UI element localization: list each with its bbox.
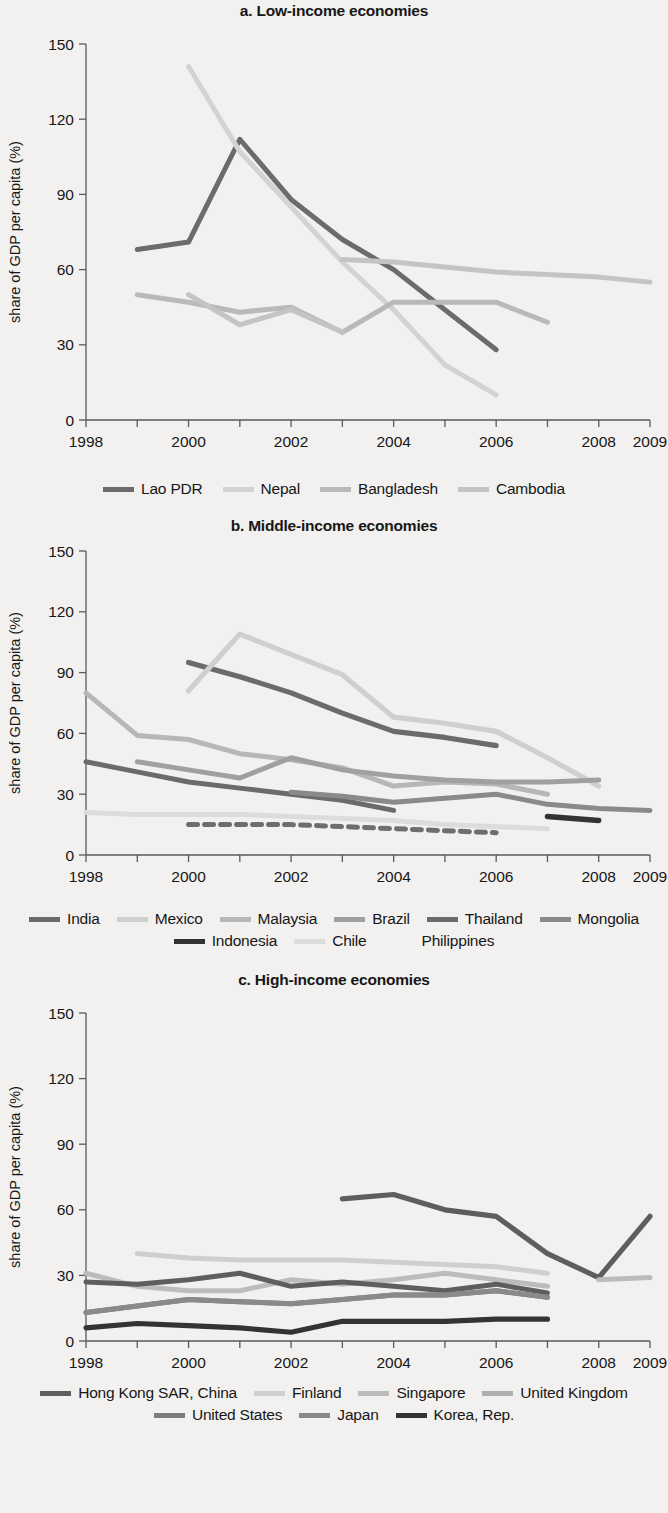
legend-item[interactable]: India xyxy=(29,909,100,929)
legend-item[interactable]: Bangladesh xyxy=(320,479,438,499)
legend-label: Chile xyxy=(332,931,366,951)
legend-item[interactable]: United States xyxy=(154,1405,282,1425)
legend-label: Singapore xyxy=(396,1383,465,1403)
panel-c-plot: 0306090120150199820002002200420062008200… xyxy=(0,991,668,1381)
legend-swatch-icon xyxy=(103,487,134,492)
legend-item[interactable]: Japan xyxy=(299,1405,378,1425)
y-axis-label: share of GDP per capita (%) xyxy=(7,612,23,794)
y-tick-label: 120 xyxy=(48,603,74,620)
x-tick-label: 2002 xyxy=(274,433,308,450)
legend-swatch-icon xyxy=(396,1413,427,1418)
legend-swatch-icon xyxy=(482,1391,513,1396)
legend-label: Bangladesh xyxy=(358,479,438,499)
legend-swatch-icon xyxy=(358,1391,389,1396)
legend-item[interactable]: Lao PDR xyxy=(103,479,203,499)
y-tick-label: 30 xyxy=(57,336,75,353)
legend-item[interactable]: Thailand xyxy=(427,909,523,929)
panel-a-title: a. Low-income economies xyxy=(0,0,668,22)
legend-swatch-icon xyxy=(154,1413,185,1418)
legend-swatch-icon xyxy=(294,939,325,944)
legend-label: Japan xyxy=(337,1405,378,1425)
panel-a-legend: Lao PDRNepalBangladeshCambodia xyxy=(0,477,668,499)
legend-swatch-icon xyxy=(223,487,254,492)
series-line xyxy=(342,260,650,283)
y-tick-label: 30 xyxy=(57,1267,75,1284)
series-line xyxy=(86,1319,547,1332)
legend-label: Hong Kong SAR, China xyxy=(78,1383,237,1403)
legend-label: Lao PDR xyxy=(141,479,203,499)
legend-label: Mongolia xyxy=(578,909,639,929)
y-tick-label: 120 xyxy=(48,1070,74,1087)
legend-swatch-icon xyxy=(299,1413,330,1418)
series-line xyxy=(599,1278,650,1280)
legend-item[interactable]: Cambodia xyxy=(458,479,565,499)
y-tick-label: 60 xyxy=(57,1201,75,1218)
y-tick-label: 150 xyxy=(48,36,74,53)
legend-label: Cambodia xyxy=(496,479,565,499)
panel-a-svg: 0306090120150199820002002200420062008200… xyxy=(0,22,668,477)
series-line xyxy=(137,1254,547,1274)
legend-item[interactable]: Singapore xyxy=(358,1383,465,1403)
legend-item[interactable]: Finland xyxy=(254,1383,341,1403)
y-tick-label: 150 xyxy=(48,543,74,560)
y-tick-label: 60 xyxy=(57,725,75,742)
legend-label: Indonesia xyxy=(212,931,277,951)
y-tick-label: 90 xyxy=(57,186,75,203)
legend-item[interactable]: Philippines xyxy=(384,931,495,951)
legend-label: Brazil xyxy=(372,909,410,929)
x-tick-label: 2002 xyxy=(274,1354,308,1371)
x-tick-label: 2006 xyxy=(479,433,513,450)
legend-swatch-icon xyxy=(117,917,148,922)
legend-label: India xyxy=(67,909,100,929)
y-tick-label: 0 xyxy=(65,412,74,429)
x-tick-label: 2000 xyxy=(171,868,206,885)
y-tick-label: 0 xyxy=(65,1333,74,1350)
legend-label: Mexico xyxy=(155,909,203,929)
x-tick-label: 1998 xyxy=(69,868,103,885)
x-tick-label: 2008 xyxy=(581,433,615,450)
y-tick-label: 0 xyxy=(65,847,74,864)
legend-swatch-icon xyxy=(384,939,415,944)
x-tick-label: 2004 xyxy=(376,1354,411,1371)
legend-swatch-icon xyxy=(220,917,251,922)
legend-item[interactable]: Brazil xyxy=(334,909,410,929)
series-line xyxy=(189,634,599,786)
legend-item[interactable]: Korea, Rep. xyxy=(396,1405,515,1425)
x-tick-label: 2009 xyxy=(633,1354,667,1371)
legend-item[interactable]: Hong Kong SAR, China xyxy=(40,1383,237,1403)
legend-item[interactable]: Nepal xyxy=(223,479,301,499)
legend-item[interactable]: Mongolia xyxy=(540,909,639,929)
panel-b-plot: 0306090120150199820002002200420062008200… xyxy=(0,537,668,907)
y-tick-label: 60 xyxy=(57,261,75,278)
x-tick-label: 2009 xyxy=(633,868,667,885)
series-line xyxy=(189,295,343,333)
x-tick-label: 2008 xyxy=(581,1354,615,1371)
figure-three-panel-line-charts: a. Low-income economies 0306090120150199… xyxy=(0,0,668,1513)
legend-label: Finland xyxy=(292,1383,341,1403)
panel-c-legend: Hong Kong SAR, ChinaFinlandSingaporeUnit… xyxy=(0,1381,668,1425)
panel-a: a. Low-income economies 0306090120150199… xyxy=(0,0,668,499)
series-line xyxy=(547,816,598,820)
panel-c: c. High-income economies 030609012015019… xyxy=(0,969,668,1425)
x-tick-label: 2008 xyxy=(581,868,615,885)
panel-b-title: b. Middle-income economies xyxy=(0,515,668,537)
x-tick-label: 2000 xyxy=(171,1354,206,1371)
legend-swatch-icon xyxy=(320,487,351,492)
legend-swatch-icon xyxy=(427,917,458,922)
legend-item[interactable]: Chile xyxy=(294,931,366,951)
y-axis-label: share of GDP per capita (%) xyxy=(7,141,23,323)
x-tick-label: 1998 xyxy=(69,433,103,450)
legend-label: Nepal xyxy=(261,479,301,499)
legend-item[interactable]: Indonesia xyxy=(174,931,277,951)
panel-b-svg: 0306090120150199820002002200420062008200… xyxy=(0,537,668,907)
legend-label: Philippines xyxy=(422,931,495,951)
legend-item[interactable]: United Kingdom xyxy=(482,1383,628,1403)
legend-item[interactable]: Mexico xyxy=(117,909,203,929)
legend-swatch-icon xyxy=(174,939,205,944)
legend-label: United States xyxy=(192,1405,282,1425)
x-tick-label: 2004 xyxy=(376,433,411,450)
legend-item[interactable]: Malaysia xyxy=(220,909,318,929)
legend-label: Thailand xyxy=(465,909,523,929)
legend-swatch-icon xyxy=(254,1391,285,1396)
panel-c-title: c. High-income economies xyxy=(0,969,668,991)
